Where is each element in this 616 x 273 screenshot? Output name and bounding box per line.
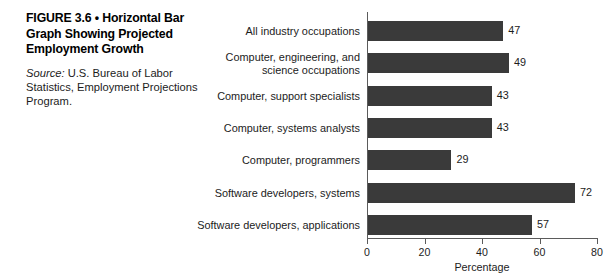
bar <box>368 150 451 170</box>
category-label: Computer, programmers <box>110 154 360 167</box>
axis-tick-label: 0 <box>364 246 370 258</box>
bar <box>368 215 532 235</box>
value-axis-title: Percentage <box>454 261 509 273</box>
axis-tick <box>482 239 483 244</box>
bar <box>368 21 503 41</box>
bar-row: 29Computer, programmers <box>368 150 598 170</box>
bar <box>368 183 575 203</box>
category-label: Software developers, systems <box>110 187 360 200</box>
plot-area: 020406080 47All industry occupations49Co… <box>367 12 597 238</box>
bar-row: 49Computer, engineering, and science occ… <box>368 53 598 73</box>
category-label: Computer, support specialists <box>110 90 360 103</box>
axis-tick-label: 40 <box>476 246 488 258</box>
axis-tick-label: 20 <box>419 246 431 258</box>
bar-value-label: 57 <box>537 218 549 230</box>
bar-value-label: 43 <box>497 121 509 133</box>
bar-value-label: 47 <box>508 24 520 36</box>
bar-row: 43Computer, systems analysts <box>368 118 598 138</box>
axis-tick-label: 80 <box>591 246 603 258</box>
bar <box>368 86 492 106</box>
category-label: All industry occupations <box>110 25 360 38</box>
category-label: Software developers, applications <box>110 219 360 232</box>
category-label: Computer, systems analysts <box>110 122 360 135</box>
category-label: Computer, engineering, and science occup… <box>110 51 360 76</box>
bar-row: 72Software developers, systems <box>368 183 598 203</box>
bar-value-label: 29 <box>456 153 468 165</box>
bar-row: 57Software developers, applications <box>368 215 598 235</box>
axis-tick <box>367 239 368 244</box>
axis-tick <box>540 239 541 244</box>
bar-row: 47All industry occupations <box>368 21 598 41</box>
axis-tick <box>425 239 426 244</box>
bar-value-label: 43 <box>497 89 509 101</box>
axis-tick-label: 60 <box>534 246 546 258</box>
bar <box>368 53 509 73</box>
axis-tick <box>597 239 598 244</box>
bar-row: 43Computer, support specialists <box>368 86 598 106</box>
bar-value-label: 49 <box>514 56 526 68</box>
bar-value-label: 72 <box>580 186 592 198</box>
bar <box>368 118 492 138</box>
